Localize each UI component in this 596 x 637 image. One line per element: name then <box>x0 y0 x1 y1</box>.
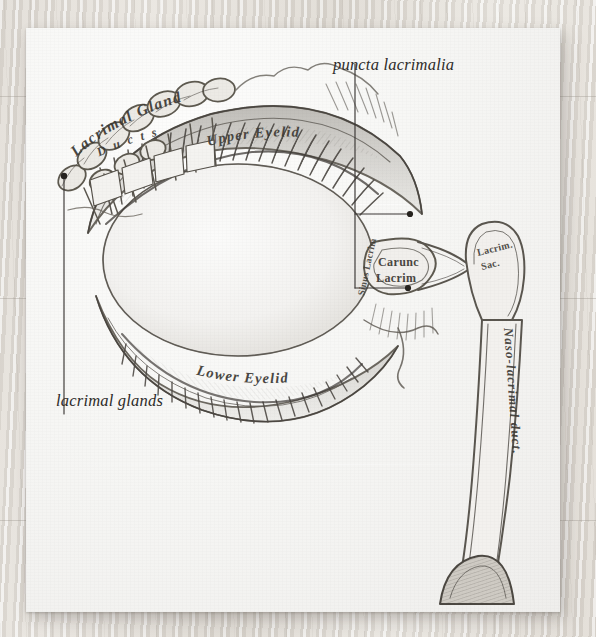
engraved-label-caruncula: Carunc <box>378 255 419 269</box>
annotation-lacrimal-glands: lacrimal glands <box>56 391 163 411</box>
punctum-lower-dot <box>405 285 411 291</box>
punctum-upper-dot <box>407 211 413 217</box>
paper-sheet: Lacrimal Gland Ducts Upper Eyelid Lower … <box>26 28 560 612</box>
annotation-puncta-lacrimalia: puncta lacrimalia <box>333 55 454 75</box>
anatomical-engraving: Lacrimal Gland Ducts Upper Eyelid Lower … <box>26 28 560 612</box>
lacrimal-gland-dot <box>61 173 67 179</box>
engraved-label-caruncula-2: Lacrim <box>376 271 416 285</box>
